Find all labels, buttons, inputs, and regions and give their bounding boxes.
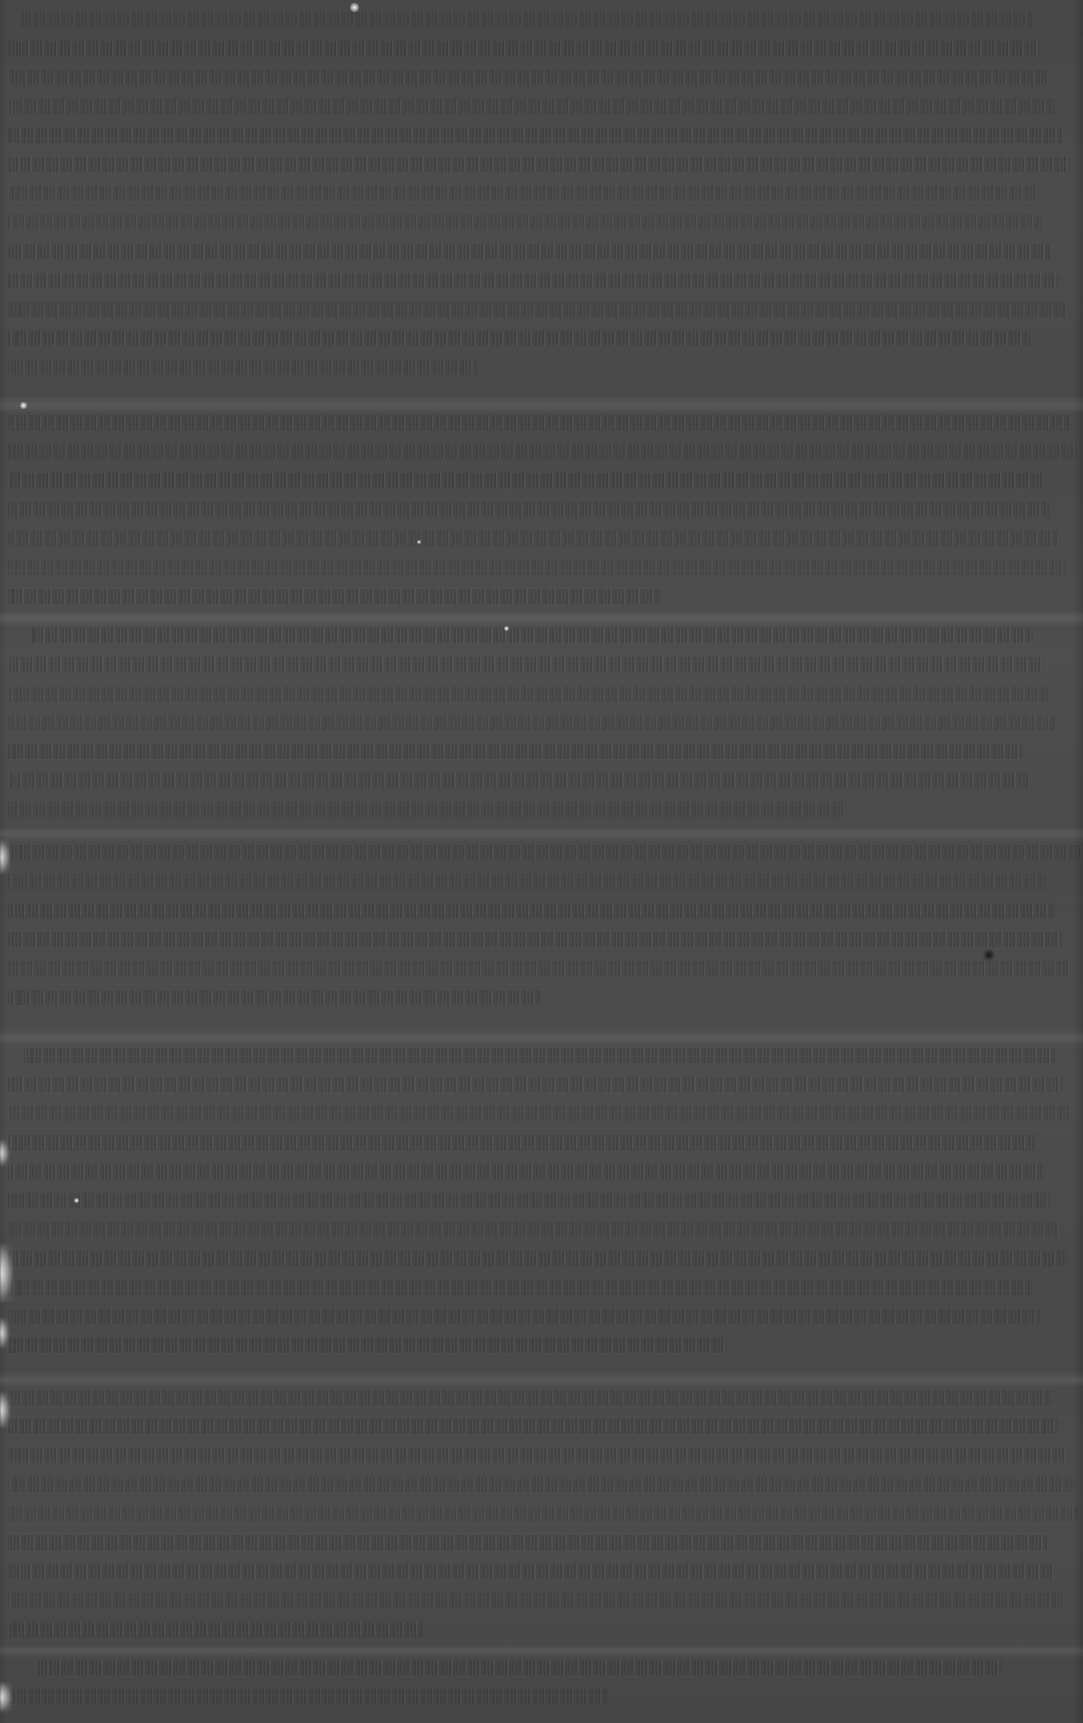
text-line (8, 1338, 726, 1353)
text-line (8, 186, 1036, 201)
page-edge-highlight-artifact (0, 1392, 10, 1428)
text-line (8, 903, 1055, 918)
text-line (8, 589, 661, 604)
paragraph-gap (0, 396, 1083, 414)
text-line (8, 1689, 607, 1704)
text-line (8, 874, 1047, 889)
text-line (8, 1535, 1047, 1550)
page-edge-highlight-artifact (0, 1682, 12, 1712)
text-line (22, 12, 1032, 27)
paragraph-gap (0, 610, 1083, 626)
text-line (8, 360, 477, 375)
text-line (8, 273, 1059, 288)
text-line (8, 990, 542, 1005)
text-line (8, 531, 1058, 546)
page-edge-highlight-artifact (0, 1244, 13, 1302)
text-line (8, 157, 1070, 172)
text-line (8, 215, 1044, 230)
bright-speck-artifact (74, 1198, 79, 1203)
text-line (8, 686, 1048, 701)
text-line (8, 244, 1051, 259)
paragraph-gap (0, 826, 1083, 842)
text-line (8, 41, 1040, 56)
dark-speck-artifact (984, 950, 994, 960)
text-line (8, 1622, 423, 1637)
page-edge-highlight-artifact (0, 1140, 9, 1166)
text-line (8, 1448, 1066, 1463)
text-line (8, 1477, 1074, 1492)
text-line (8, 560, 1066, 575)
text-line (8, 415, 1070, 430)
text-line (8, 1222, 1059, 1237)
text-line (8, 657, 1041, 672)
text-line (8, 1309, 1040, 1324)
text-line (8, 331, 1032, 346)
text-line (8, 773, 1029, 788)
text-line (38, 1660, 1002, 1675)
text-line (8, 744, 1022, 759)
text-line (8, 99, 1055, 114)
text-line (8, 444, 1077, 459)
paragraph-gap (0, 1030, 1083, 1046)
text-line (8, 961, 1070, 976)
text-line (8, 1077, 1063, 1092)
text-line (8, 1193, 1051, 1208)
text-line (8, 502, 1051, 517)
text-line (8, 1390, 1051, 1405)
right-page-margin (1073, 0, 1083, 1723)
text-line (8, 1135, 1036, 1150)
text-line (8, 128, 1063, 143)
bright-speck-artifact (417, 540, 421, 544)
text-line (8, 1280, 1032, 1295)
text-line (8, 932, 1062, 947)
text-line (8, 1506, 1081, 1521)
scanned-document-page (0, 0, 1083, 1723)
paragraph-gap (0, 1644, 1083, 1658)
bright-speck-artifact (350, 3, 359, 12)
text-line (8, 1564, 1055, 1579)
text-line (30, 628, 1033, 643)
text-line (8, 302, 1067, 317)
text-line (8, 1419, 1058, 1434)
text-line (8, 845, 1081, 860)
text-line (24, 1048, 1055, 1063)
text-line (8, 715, 1056, 730)
text-line (8, 1106, 1070, 1121)
text-line (8, 1164, 1044, 1179)
bright-speck-artifact (504, 626, 509, 631)
text-line (8, 802, 846, 817)
page-edge-highlight-artifact (0, 1318, 9, 1348)
page-edge-highlight-artifact (0, 840, 10, 874)
paragraph-gap (0, 1372, 1083, 1388)
text-line (8, 70, 1048, 85)
text-line (8, 1593, 1062, 1608)
text-line (8, 473, 1043, 488)
text-line (8, 1251, 1067, 1266)
bright-speck-artifact (20, 402, 27, 409)
